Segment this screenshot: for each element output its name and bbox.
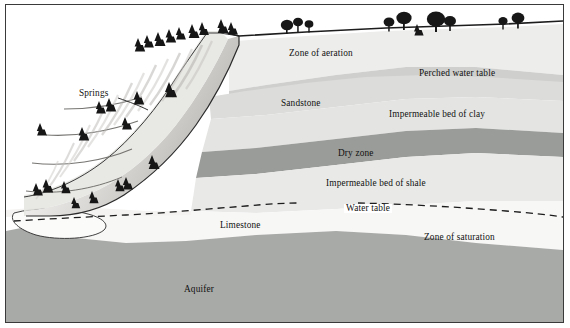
cross-section-illustration [6, 5, 563, 322]
label-water-table: Water table [344, 204, 392, 213]
groundwater-diagram: Springs Zone of aeration Perched water t… [0, 0, 570, 328]
label-impermeable-bed-of-shale: Impermeable bed of shale [326, 179, 426, 188]
label-zone-of-aeration: Zone of aeration [289, 49, 353, 58]
label-perched-water-table: Perched water table [419, 69, 495, 78]
label-sandstone: Sandstone [281, 99, 321, 108]
label-aquifer: Aquifer [184, 285, 214, 294]
diagram-frame: Springs Zone of aeration Perched water t… [5, 4, 564, 323]
label-dry-zone: Dry zone [338, 149, 374, 158]
label-impermeable-bed-of-clay: Impermeable bed of clay [389, 110, 485, 119]
label-springs: Springs [79, 89, 108, 98]
label-zone-of-saturation: Zone of saturation [424, 233, 495, 242]
label-limestone: Limestone [220, 221, 261, 230]
